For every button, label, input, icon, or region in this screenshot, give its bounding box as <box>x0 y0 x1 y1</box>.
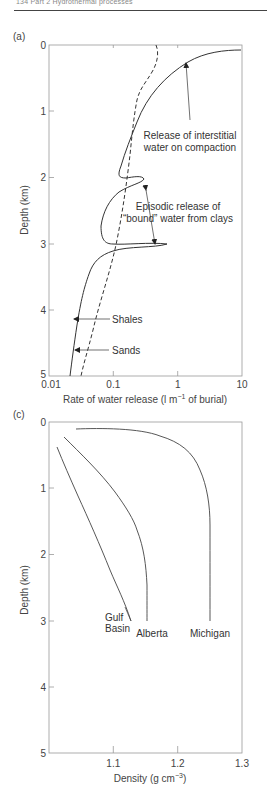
svg-text:0.1: 0.1 <box>106 379 120 390</box>
svg-text:2: 2 <box>40 172 46 183</box>
svg-text:10: 10 <box>236 379 248 390</box>
svg-text:1.1: 1.1 <box>106 758 120 769</box>
svg-text:5: 5 <box>40 748 46 759</box>
svg-text:0.01: 0.01 <box>41 379 61 390</box>
svg-text:0: 0 <box>40 417 46 428</box>
svg-text:1.3: 1.3 <box>235 758 249 769</box>
svg-text:1: 1 <box>40 106 46 117</box>
annotation-release-line2: water on compaction <box>143 142 236 153</box>
label-michigan: Michigan <box>190 628 230 639</box>
series-michigan <box>76 429 210 621</box>
svg-text:0: 0 <box>40 40 46 51</box>
chart-a: (a) 0 1 2 3 4 5 0.01 0.1 1 <box>13 31 248 405</box>
panel-label-c: (c) <box>13 409 25 420</box>
svg-text:1.2: 1.2 <box>171 758 185 769</box>
svg-text:4: 4 <box>40 305 46 316</box>
annotation-release-line1: Release of interstitial <box>144 130 237 141</box>
svg-text:3: 3 <box>40 239 46 250</box>
y-ticks-c <box>49 488 54 687</box>
y-axis-title-a: Depth (km) <box>19 185 30 234</box>
svg-text:2: 2 <box>40 549 46 560</box>
y-ticks-a <box>49 111 54 310</box>
arrow-release <box>186 63 190 120</box>
x-axis-title-a: Rate of water release (l m−1 of burial) <box>63 393 227 405</box>
annotation-episodic-line2: “bound” water from clays <box>123 213 233 224</box>
svg-text:1: 1 <box>175 379 181 390</box>
svg-text:1: 1 <box>40 483 46 494</box>
x-axis-title-c: Density (g cm−3) <box>114 772 186 784</box>
panel-label-a: (a) <box>13 31 25 42</box>
chart-c: (c) 0 1 2 3 4 5 1.1 1.2 1.3 Density (g c… <box>13 409 249 784</box>
y-tick-labels-c: 0 1 2 3 4 5 <box>40 417 46 759</box>
x-tick-labels-a: 0.01 0.1 1 10 <box>41 379 248 390</box>
label-gulf-line2: Basin <box>105 623 130 634</box>
annotation-sands: Sands <box>112 345 140 356</box>
plot-frame-c <box>49 422 242 753</box>
label-gulf-line1: Gulf <box>105 612 124 623</box>
y-tick-labels-a: 0 1 2 3 4 5 <box>40 40 46 380</box>
annotation-shales: Shales <box>112 314 143 325</box>
series-alberta <box>64 437 147 621</box>
x-tick-labels-c: 1.1 1.2 1.3 <box>106 758 249 769</box>
figure-canvas: (a) 0 1 2 3 4 5 0.01 0.1 1 <box>0 0 267 812</box>
x-ticks-c <box>113 746 177 753</box>
leader-gulf <box>125 607 131 621</box>
label-alberta: Alberta <box>136 628 168 639</box>
y-axis-title-c: Depth (km) <box>19 565 30 614</box>
svg-text:4: 4 <box>40 682 46 693</box>
series-gulf-basin <box>57 447 131 621</box>
svg-text:3: 3 <box>40 616 46 627</box>
annotation-episodic-line1: Episodic release of <box>136 201 221 212</box>
